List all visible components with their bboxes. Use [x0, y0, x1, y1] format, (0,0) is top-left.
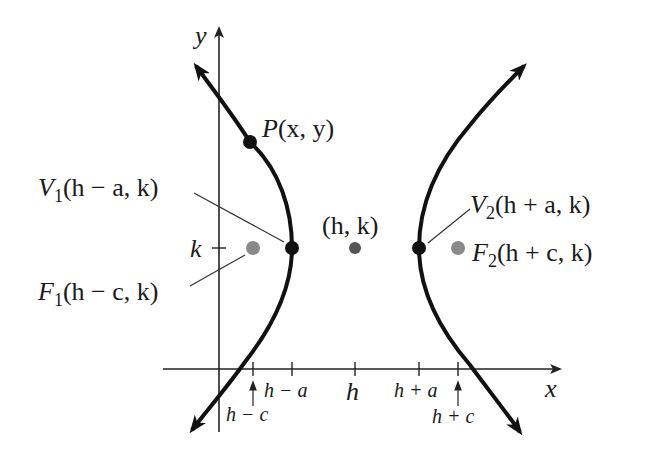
tick-label-h-plus-a: h + a	[394, 379, 438, 401]
y-axis-label: y	[192, 21, 207, 50]
label-p: P(x, y)	[261, 114, 334, 143]
x-axis-label: x	[544, 374, 557, 403]
right-branch-upper	[419, 66, 524, 248]
tick-label-h-minus-c: h − c	[226, 403, 268, 425]
point-p	[243, 135, 257, 149]
tick-label-h: h	[346, 377, 359, 406]
label-v2: V2(h + a, k)	[470, 190, 590, 223]
label-v1: V1(h − a, k)	[38, 173, 158, 206]
label-f2: F2(h + c, k)	[471, 238, 592, 271]
leader-v1	[194, 193, 284, 242]
hyperbola-diagram: y x k h − a h − c h h + a h + c P(x, y) …	[0, 0, 653, 454]
tick-label-h-plus-c: h + c	[432, 405, 474, 427]
focus-f1	[246, 241, 260, 255]
tick-label-h-minus-a: h − a	[264, 379, 308, 401]
label-f1: F1(h − c, k)	[37, 277, 158, 310]
vertex-v1	[285, 241, 299, 255]
vertex-v2	[412, 241, 426, 255]
focus-f2	[451, 241, 465, 255]
k-label: k	[190, 234, 202, 263]
leader-v2	[428, 209, 470, 243]
label-center: (h, k)	[322, 211, 378, 240]
center-point	[349, 242, 361, 254]
